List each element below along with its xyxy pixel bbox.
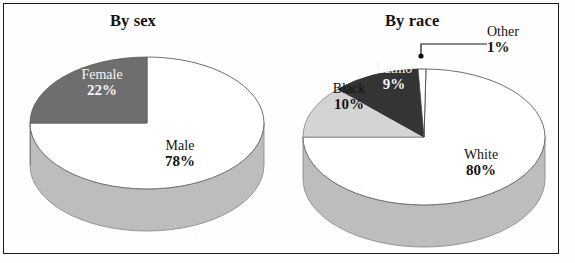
other-leader-dot (418, 53, 423, 58)
slice-label-other-pct: 1% (487, 40, 537, 55)
slice-label-white-name: White (448, 148, 514, 162)
other-leader-line (421, 44, 487, 56)
slice-label-other: Other 1% (487, 25, 537, 56)
slice-label-male: Male 78% (143, 139, 217, 170)
chart-title-by-sex: By sex (110, 11, 156, 31)
slice-label-latino-pct: 9% (364, 77, 424, 92)
slice-label-latino-name: Latino (364, 62, 424, 76)
slice-label-female-name: Female (59, 68, 145, 82)
slice-label-female-pct: 22% (59, 83, 145, 98)
slice-label-male-name: Male (143, 139, 217, 153)
slice-label-other-name: Other (487, 25, 537, 39)
slice-label-male-pct: 78% (143, 154, 217, 169)
slice-label-white-pct: 80% (448, 163, 514, 178)
slice-label-black-pct: 10% (318, 97, 380, 112)
slice-label-white: White 80% (448, 148, 514, 179)
slice-label-female: Female 22% (59, 68, 145, 99)
chart-title-by-race: By race (385, 11, 439, 31)
slice-label-latino: Latino 9% (364, 62, 424, 93)
